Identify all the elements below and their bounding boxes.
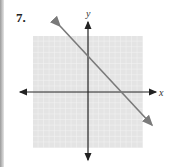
x-axis-label: x (158, 87, 164, 98)
coordinate-plane: y x (0, 0, 174, 167)
y-axis-label: y (85, 8, 91, 19)
